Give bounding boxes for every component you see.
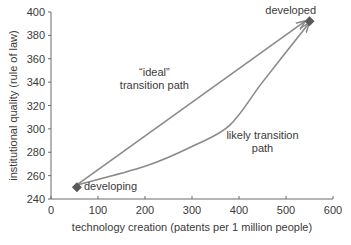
x-tick-label: 100 (89, 204, 107, 216)
x-tick-label: 500 (277, 204, 295, 216)
annotation-label: developed (265, 4, 316, 16)
x-axis-title: technology creation (patents per 1 milli… (72, 221, 312, 233)
x-tick-label: 0 (48, 204, 54, 216)
labels: “ideal”transition pathlikely transitionp… (84, 4, 316, 191)
annotation-label: path (252, 142, 273, 154)
y-tick-label: 260 (27, 170, 45, 182)
chart: 2402602803003203403603804000100200300400… (0, 0, 351, 245)
y-tick-label: 340 (27, 76, 45, 88)
annotation-label: developing (84, 180, 137, 192)
y-tick-label: 240 (27, 193, 45, 205)
y-tick-label: 300 (27, 123, 45, 135)
y-tick-label: 380 (27, 29, 45, 41)
curves (77, 21, 309, 185)
annotation-label: likely transition (226, 129, 298, 141)
y-axis-title: institutional quality (rule of law) (7, 30, 19, 180)
points (72, 16, 315, 192)
ideal-transition-path (77, 21, 305, 185)
x-tick-label: 600 (324, 204, 342, 216)
point-developed (305, 16, 315, 26)
annotation-label: transition path (120, 79, 189, 91)
axes: 2402602803003203403603804000100200300400… (7, 6, 342, 233)
y-tick-label: 280 (27, 146, 45, 158)
x-tick-label: 400 (230, 204, 248, 216)
y-tick-label: 400 (27, 6, 45, 18)
y-tick-label: 320 (27, 100, 45, 112)
x-tick-label: 300 (183, 204, 201, 216)
annotation-label: “ideal” (139, 66, 170, 78)
x-tick-label: 200 (136, 204, 154, 216)
y-tick-label: 360 (27, 53, 45, 65)
